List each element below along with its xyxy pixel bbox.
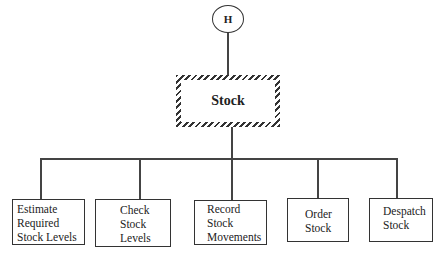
node-label-line: Check xyxy=(120,203,170,217)
root-node-stock: Stock xyxy=(176,75,280,127)
node-label-line: Despatch xyxy=(383,204,432,218)
node-label-line: Stock xyxy=(120,217,170,231)
connector-child-5 xyxy=(396,158,398,198)
connector-root-down xyxy=(231,127,233,200)
node-label-line: Record xyxy=(207,202,266,216)
connector-h-to-root xyxy=(227,33,229,75)
node-label-line: Order xyxy=(305,207,348,221)
node-estimate-required-stock-levels: Estimate Required Stock Levels xyxy=(12,199,85,245)
off-page-connector-h: H xyxy=(212,5,244,33)
horizontal-bus xyxy=(40,158,398,160)
node-check-stock-levels: Check Stock Levels xyxy=(95,199,171,247)
connector-child-1 xyxy=(40,158,42,199)
node-label-line: Stock xyxy=(383,218,432,232)
connector-label: H xyxy=(224,13,233,25)
node-label-line: Movements xyxy=(207,230,266,244)
node-label-line: Stock Levels xyxy=(17,230,84,244)
root-label: Stock xyxy=(211,93,244,109)
node-label-line: Estimate xyxy=(17,202,84,216)
node-label-line: Stock xyxy=(207,216,266,230)
node-label-line: Stock xyxy=(305,221,348,235)
node-label-line: Required xyxy=(17,216,84,230)
node-despatch-stock: Despatch Stock xyxy=(369,198,433,242)
node-label-line: Levels xyxy=(120,231,170,245)
node-record-stock-movements: Record Stock Movements xyxy=(194,200,267,245)
connector-child-2 xyxy=(139,158,141,199)
connector-child-4 xyxy=(317,158,319,198)
node-order-stock: Order Stock xyxy=(287,198,349,242)
